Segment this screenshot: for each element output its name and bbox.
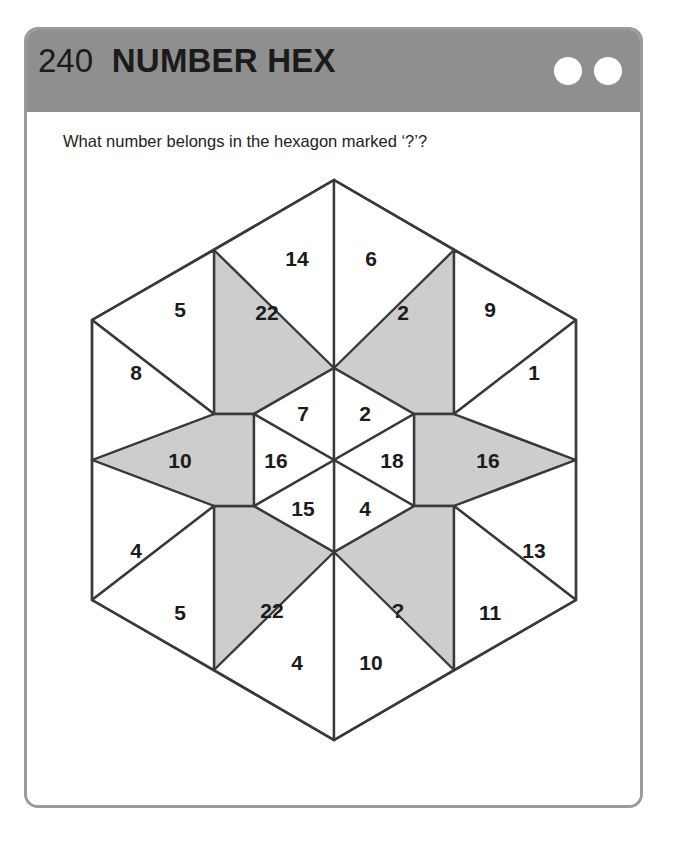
cell-label-lower-right-upper: 13 (522, 539, 545, 562)
circle-icon-2 (594, 57, 622, 85)
cell-label-center-right: 18 (380, 449, 404, 472)
cell-label-lower-left-lower: 5 (174, 601, 186, 624)
cell-label-lower-left-upper: 4 (130, 539, 142, 562)
hexagon-diagram: 14 6 5 8 9 1 22 2 16 ? 22 10 7 (84, 170, 584, 750)
cell-label-center-left: 16 (264, 449, 287, 472)
puzzle-figure: 14 6 5 8 9 1 22 2 16 ? 22 10 7 (27, 170, 640, 770)
cell-label-bottom-right: 10 (359, 651, 382, 674)
cell-label-upper-right-lower: 1 (528, 361, 540, 384)
page-root: 240 NUMBER HEX What number belongs in th… (0, 0, 687, 842)
cell-label-bottom-left: 4 (291, 651, 303, 674)
cell-label-center-bottom-right: 4 (359, 497, 371, 520)
header-dots (554, 57, 622, 85)
puzzle-number: 240 (38, 42, 93, 79)
cell-label-lower-right-lower: 11 (478, 601, 501, 624)
cell-label-center-bottom-left: 15 (291, 497, 315, 520)
cell-label-top-left: 14 (285, 247, 309, 270)
card-header: 240 NUMBER HEX (27, 30, 640, 112)
cell-label-center-top-right: 2 (359, 402, 371, 425)
cell-label-top-right: 6 (365, 247, 377, 270)
cell-label-shaded-lower-left: 22 (260, 599, 283, 622)
cell-label-shaded-left: 10 (168, 449, 191, 472)
cell-label-upper-left-lower: 8 (130, 361, 142, 384)
cell-label-shaded-right: 16 (476, 449, 499, 472)
page-title: 240 NUMBER HEX (38, 42, 336, 80)
card-body: What number belongs in the hexagon marke… (27, 112, 640, 805)
cell-label-upper-right-upper: 9 (484, 298, 496, 321)
puzzle-title: NUMBER HEX (112, 42, 336, 79)
cell-label-shaded-upper-left: 22 (255, 301, 278, 324)
cell-label-shaded-lower-right: ? (391, 599, 404, 622)
cell-label-center-top-left: 7 (297, 402, 309, 425)
question-text: What number belongs in the hexagon marke… (63, 132, 427, 151)
cell-label-shaded-upper-right: 2 (397, 301, 409, 324)
cell-label-upper-left-upper: 5 (174, 298, 186, 321)
circle-icon-1 (554, 57, 582, 85)
puzzle-card: 240 NUMBER HEX What number belongs in th… (24, 27, 643, 808)
